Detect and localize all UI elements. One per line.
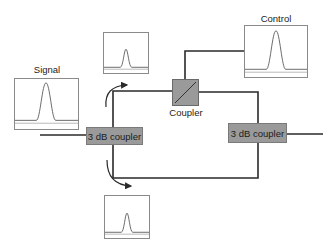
lower-arm	[113, 143, 258, 178]
upper-arm-right	[199, 92, 258, 123]
right-3db-coupler: 3 dB coupler	[228, 123, 287, 143]
arrow-down-icon	[107, 160, 131, 186]
control-fiber	[185, 51, 244, 79]
top-output-pulse-plot	[103, 32, 149, 74]
upper-arm-left	[113, 91, 172, 127]
signal-pulse-plot	[14, 78, 79, 130]
bottom-output-pulse-plot	[104, 195, 150, 239]
beam-splitter-icon	[172, 79, 199, 106]
diagram-canvas: Signal Control Coupler 3 dB coupler 3 dB…	[0, 0, 335, 252]
control-pulse-plot	[244, 25, 308, 78]
coupler-label: Coupler	[169, 108, 202, 118]
control-label: Control	[261, 14, 292, 24]
arrow-up-icon	[106, 85, 127, 107]
signal-label: Signal	[34, 65, 60, 75]
coupler-block	[172, 79, 199, 106]
left-3db-coupler: 3 dB coupler	[86, 127, 143, 145]
